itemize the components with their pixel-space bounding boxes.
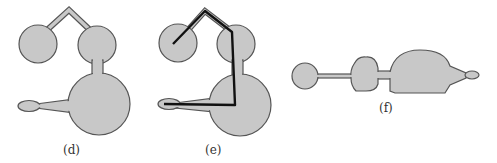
panel-e-shape: [158, 11, 271, 136]
panel-f-shape: [292, 50, 479, 93]
panel-label-d: (d): [63, 143, 80, 157]
panel-label-e: (e): [205, 143, 221, 157]
panel-label-f: (f): [379, 101, 393, 115]
panel-d-shape: [18, 10, 130, 135]
figure-canvas: [0, 0, 497, 163]
